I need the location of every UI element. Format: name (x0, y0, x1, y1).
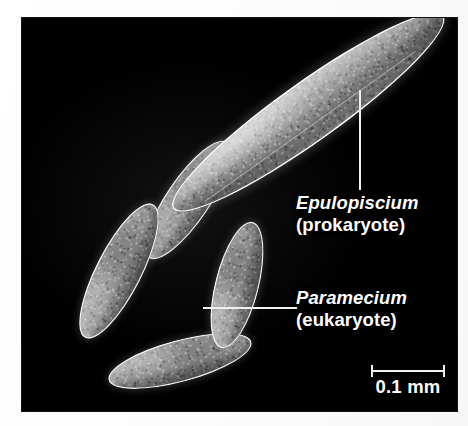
label-epulopiscium-domain: (prokaryote) (296, 215, 419, 234)
scale-bar-label: 0.1 mm (371, 376, 445, 398)
leader-line-epulopiscium (359, 90, 361, 190)
label-paramecium-genus: Paramecium (296, 288, 407, 307)
scale-bar: 0.1 mm (371, 370, 445, 398)
paramecium-cell-labelled (200, 217, 274, 354)
label-epulopiscium-genus: Epulopiscium (296, 193, 419, 212)
label-paramecium: Paramecium (eukaryote) (296, 288, 407, 330)
micrograph-plate: Epulopiscium (prokaryote) Paramecium (eu… (22, 18, 457, 411)
label-paramecium-domain: (eukaryote) (296, 310, 407, 329)
leader-line-paramecium (203, 307, 297, 309)
figure-panel: Epulopiscium (prokaryote) Paramecium (eu… (0, 0, 468, 426)
scale-bar-line (371, 370, 445, 372)
paramecium-cell (64, 194, 173, 349)
label-epulopiscium: Epulopiscium (prokaryote) (296, 193, 419, 235)
